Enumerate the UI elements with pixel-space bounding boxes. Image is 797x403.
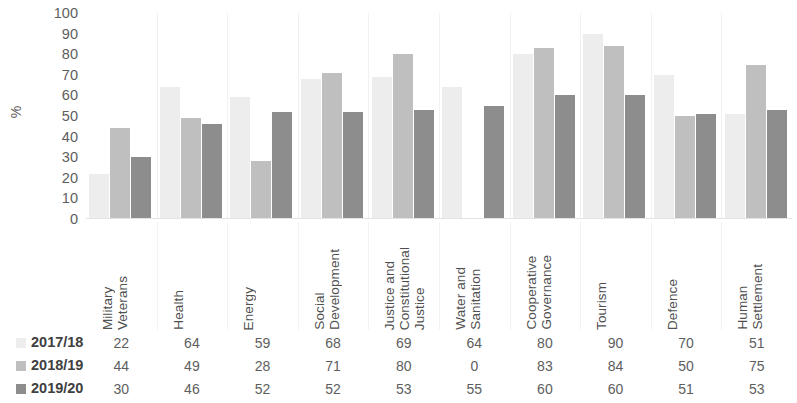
category-label-line: Sanitation	[468, 267, 483, 330]
category-label-line: Defence	[665, 279, 680, 330]
data-cell: 60	[580, 381, 651, 397]
bar	[767, 110, 787, 219]
data-cell: 75	[721, 358, 792, 374]
bar-group	[227, 13, 298, 219]
bar	[343, 112, 363, 219]
y-axis-tick-90: 90	[62, 27, 78, 41]
category-label-line: Water and	[453, 267, 468, 330]
bar	[393, 54, 413, 219]
data-cell: 30	[86, 381, 157, 397]
category-label-line: Justice and	[382, 247, 397, 330]
y-axis-title: %	[8, 98, 24, 126]
data-cell: 70	[651, 335, 722, 351]
data-cell: 71	[298, 358, 369, 374]
data-cell: 83	[510, 358, 581, 374]
category-label: CooperativeGovernance	[510, 222, 581, 330]
category-label-line: Energy	[241, 287, 256, 330]
data-cell: 80	[368, 358, 439, 374]
legend-series-label: 2019/20	[31, 380, 83, 396]
data-cell: 50	[651, 358, 722, 374]
category-label: Tourism	[580, 222, 651, 330]
category-label: MilitaryVeterans	[86, 222, 157, 330]
bar	[604, 46, 624, 219]
data-cell: 22	[86, 335, 157, 351]
bar-group	[368, 13, 439, 219]
data-cell: 68	[298, 335, 369, 351]
bar	[555, 95, 575, 219]
category-label: SocialDevelopment	[298, 222, 369, 330]
data-cell: 53	[368, 381, 439, 397]
plot-area	[86, 13, 792, 219]
legend-series-label: 2018/19	[31, 357, 83, 373]
data-cell: 90	[580, 335, 651, 351]
y-axis-tick-50: 50	[62, 109, 78, 123]
data-cell: 0	[439, 358, 510, 374]
bar-group	[86, 13, 157, 219]
data-cell: 64	[157, 335, 228, 351]
bar	[414, 110, 434, 219]
category-label: HumanSettlement	[721, 222, 792, 330]
data-cell: 51	[721, 335, 792, 351]
y-axis-tick-40: 40	[62, 130, 78, 144]
category-label-line: Governance	[539, 255, 554, 330]
bar	[160, 87, 180, 219]
data-cell: 52	[227, 381, 298, 397]
data-cell: 55	[439, 381, 510, 397]
bar-group	[651, 13, 722, 219]
bar-group	[510, 13, 581, 219]
data-cell: 84	[580, 358, 651, 374]
bar	[301, 79, 321, 219]
y-axis: 1009080706050403020100	[34, 0, 82, 225]
category-label: Defence	[651, 222, 722, 330]
bar	[696, 114, 716, 219]
bar-group	[580, 13, 651, 219]
bar	[110, 128, 130, 219]
y-axis-tick-70: 70	[62, 68, 78, 82]
legend-row: 2019/2030465252535560605153	[0, 378, 797, 401]
bar	[131, 157, 151, 219]
bar-group	[721, 13, 792, 219]
data-cell: 80	[510, 335, 581, 351]
category-label: Health	[157, 222, 228, 330]
category-label-line: Justice	[412, 247, 427, 330]
bar-group	[439, 13, 510, 219]
data-cell: 69	[368, 335, 439, 351]
bar	[272, 112, 292, 219]
data-cell: 44	[86, 358, 157, 374]
bar	[322, 73, 342, 219]
bar	[654, 75, 674, 219]
legend-swatch-icon	[16, 338, 26, 348]
y-axis-tick-30: 30	[62, 150, 78, 164]
bar	[675, 116, 695, 219]
x-axis-line	[86, 218, 792, 219]
category-label-line: Development	[327, 249, 342, 330]
y-axis-tick-10: 10	[62, 191, 78, 205]
bar	[251, 161, 271, 219]
bar	[725, 114, 745, 219]
category-label-line: Tourism	[594, 282, 609, 330]
bar	[484, 106, 504, 219]
bar	[746, 65, 766, 220]
data-cell: 28	[227, 358, 298, 374]
legend-series-label: 2017/18	[31, 334, 83, 350]
legend-row: 2017/1822645968696480907051	[0, 332, 797, 355]
bar	[513, 54, 533, 219]
category-axis: MilitaryVeteransHealthEnergySocialDevelo…	[86, 222, 792, 332]
category-label: Justice andConstitutionalJustice	[368, 222, 439, 330]
data-cell: 59	[227, 335, 298, 351]
chart-page: % 1009080706050403020100 MilitaryVeteran…	[0, 0, 797, 403]
category-label-line: Constitutional	[397, 247, 412, 330]
bar	[534, 48, 554, 219]
y-axis-tick-100: 100	[54, 6, 78, 20]
category-label-line: Human	[735, 264, 750, 330]
category-label: Water andSanitation	[439, 222, 510, 330]
data-cell: 52	[298, 381, 369, 397]
bar	[230, 97, 250, 219]
bar	[372, 77, 392, 219]
legend-row: 2018/194449287180083845075	[0, 355, 797, 378]
bar	[583, 34, 603, 219]
category-label-line: Military	[100, 276, 115, 330]
category-label-line: Cooperative	[524, 255, 539, 330]
category-label: Energy	[227, 222, 298, 330]
y-axis-tick-80: 80	[62, 47, 78, 61]
